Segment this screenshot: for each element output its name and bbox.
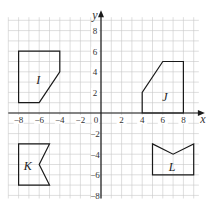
x-tick-label: 4 (140, 115, 145, 125)
x-tick-label: 2 (119, 115, 124, 125)
x-tick-label: −2 (76, 115, 86, 125)
y-tick-label: −4 (90, 150, 100, 160)
x-tick-label: 6 (161, 115, 166, 125)
y-tick-label: −6 (90, 170, 100, 180)
origin-label: 0 (94, 115, 99, 125)
x-axis-label: x (199, 112, 206, 126)
shape-label-j: J (162, 90, 168, 104)
y-tick-label: −2 (90, 129, 100, 139)
x-tick-label: −8 (14, 115, 24, 125)
x-tick-label: 8 (181, 115, 186, 125)
coordinate-grid-diagram: IJKL −8−6−4−224688642−2−4−6−80xy (0, 0, 206, 206)
y-tick-label: 4 (93, 67, 98, 77)
y-tick-label: 2 (93, 88, 98, 98)
y-tick-label: −8 (90, 191, 100, 201)
shape-label-k: K (23, 159, 33, 173)
y-tick-label: 6 (93, 47, 98, 57)
x-tick-label: −4 (55, 115, 65, 125)
y-tick-label: 8 (93, 26, 98, 36)
y-axis-arrow-icon (98, 10, 104, 17)
x-tick-label: −6 (34, 115, 44, 125)
shape-label-l: L (168, 160, 176, 174)
y-axis-label: y (91, 8, 98, 22)
shape-label-i: I (35, 73, 41, 87)
